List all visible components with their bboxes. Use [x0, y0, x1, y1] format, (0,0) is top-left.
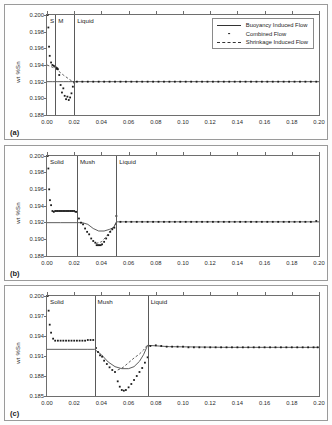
x-axis-tick-mark	[129, 11, 130, 15]
series-shrinkage-induced-flow-line	[96, 222, 116, 243]
legend-item-buoyancy: Buoyancy Induced Flow	[216, 22, 308, 28]
y-axis-tick-label: 0.198	[29, 169, 44, 175]
zone-label: Liquid	[151, 298, 168, 305]
x-axis-tick-label: 0.16	[259, 400, 270, 406]
y-axis-tick-label: 0.194	[29, 62, 44, 68]
x-axis-tick-mark	[265, 11, 266, 15]
zone-boundary-line	[148, 296, 149, 396]
y-axis-tick-mark	[44, 15, 48, 16]
x-axis-tick-mark	[319, 11, 320, 15]
panel-a-ylabel: wt %Sn	[15, 61, 21, 83]
x-axis-tick-mark	[74, 152, 75, 156]
y-axis-tick-label: 0.194	[29, 333, 44, 339]
y-axis-tick-mark	[44, 115, 48, 116]
y-axis-tick-label: 0.194	[29, 203, 44, 209]
x-axis-tick-label: 0.06	[123, 260, 134, 266]
y-axis-tick-label: 0.190	[29, 236, 44, 242]
y-axis-tick-mark	[44, 98, 48, 99]
series-combined-flow-markers	[47, 295, 319, 391]
x-axis-tick-mark	[156, 11, 157, 15]
x-axis-tick-mark	[210, 292, 211, 296]
y-axis-tick-label: 0.185	[29, 393, 44, 399]
y-axis-tick-label: 0.188	[29, 253, 44, 259]
x-axis-tick-mark	[101, 292, 102, 296]
x-axis-tick-mark	[237, 152, 238, 156]
y-axis-tick-mark	[44, 65, 48, 66]
x-axis-tick-label: 0.04	[96, 119, 107, 125]
x-axis-tick-label: 0.20	[313, 260, 324, 266]
panel-b-axes: 0.1880.1900.1920.1940.1960.1980.2000.000…	[46, 155, 320, 257]
panel-c: (c) wt %Sn 0.1850.1880.1910.1940.1970.20…	[4, 285, 328, 421]
series-buoyancy-induced-flow-line	[47, 345, 319, 368]
legend-label-shrinkage: Shrinkage Induced Flow	[246, 39, 308, 45]
x-axis-tick-label: 0.10	[177, 260, 188, 266]
x-axis-tick-label: 0.10	[177, 400, 188, 406]
x-axis-tick-mark	[292, 152, 293, 156]
x-axis-tick-label: 0.00	[41, 400, 52, 406]
x-axis-tick-label: 0.18	[286, 260, 297, 266]
y-axis-tick-mark	[44, 376, 48, 377]
legend: Buoyancy Induced Flow Combined Flow Shri…	[212, 18, 314, 49]
series-shrinkage-induced-flow-line	[118, 345, 148, 370]
x-axis-tick-label: 0.16	[259, 260, 270, 266]
legend-item-combined: Combined Flow	[216, 31, 308, 37]
y-axis-tick-label: 0.200	[29, 293, 44, 299]
x-axis-tick-label: 0.04	[96, 400, 107, 406]
x-axis-tick-mark	[101, 152, 102, 156]
x-axis-tick-mark	[156, 152, 157, 156]
panel-a: (a) wt %Sn 0.1880.1900.1920.1940.1960.19…	[4, 4, 328, 140]
y-axis-tick-mark	[44, 222, 48, 223]
zone-label: S	[50, 17, 54, 24]
zone-label: Liquid	[119, 158, 136, 165]
x-axis-tick-label: 0.18	[286, 119, 297, 125]
y-axis-tick-mark	[44, 32, 48, 33]
x-axis-tick-mark	[265, 152, 266, 156]
x-axis-tick-label: 0.08	[150, 260, 161, 266]
x-axis-tick-label: 0.12	[205, 119, 216, 125]
zone-label: Liquid	[77, 17, 94, 24]
panel-c-plot-area: 0.1850.1880.1910.1940.1970.2000.000.020.…	[46, 295, 320, 397]
panel-c-series-layer	[47, 296, 319, 396]
y-axis-tick-mark	[44, 48, 48, 49]
y-axis-tick-label: 0.200	[29, 153, 44, 159]
legend-label-combined: Combined Flow	[246, 31, 286, 37]
x-axis-tick-mark	[183, 11, 184, 15]
x-axis-tick-mark	[183, 292, 184, 296]
x-axis-tick-label: 0.16	[259, 119, 270, 125]
x-axis-tick-label: 0.12	[205, 400, 216, 406]
series-buoyancy-induced-flow-line	[47, 221, 319, 230]
figure-container: (a) wt %Sn 0.1880.1900.1920.1940.1960.19…	[0, 0, 332, 425]
y-axis-tick-label: 0.190	[29, 95, 44, 101]
y-axis-tick-label: 0.188	[29, 112, 44, 118]
x-axis-tick-label: 0.02	[69, 260, 80, 266]
y-axis-tick-mark	[44, 239, 48, 240]
y-axis-tick-label: 0.200	[29, 12, 44, 18]
y-axis-tick-label: 0.188	[29, 373, 44, 379]
x-axis-tick-mark	[129, 152, 130, 156]
y-axis-tick-mark	[44, 296, 48, 297]
x-axis-tick-mark	[101, 11, 102, 15]
panel-c-axes: 0.1850.1880.1910.1940.1970.2000.000.020.…	[46, 295, 320, 397]
x-axis-tick-mark	[292, 292, 293, 296]
x-axis-tick-mark	[210, 11, 211, 15]
x-axis-tick-label: 0.08	[150, 400, 161, 406]
y-axis-tick-label: 0.198	[29, 29, 44, 35]
x-axis-tick-mark	[47, 11, 48, 15]
legend-label-buoyancy: Buoyancy Induced Flow	[246, 22, 308, 28]
y-axis-tick-mark	[44, 172, 48, 173]
x-axis-tick-mark	[47, 152, 48, 156]
y-axis-tick-mark	[44, 82, 48, 83]
x-axis-tick-label: 0.08	[150, 119, 161, 125]
panel-b-tag: (b)	[10, 269, 20, 278]
y-axis-tick-label: 0.196	[29, 45, 44, 51]
zone-boundary-line	[77, 156, 78, 256]
y-axis-tick-mark	[44, 336, 48, 337]
x-axis-tick-mark	[183, 152, 184, 156]
dot-marker-icon	[216, 31, 242, 37]
x-axis-tick-mark	[210, 152, 211, 156]
panel-c-tag: (c)	[10, 409, 19, 418]
panel-b-series-layer	[47, 156, 319, 256]
y-axis-tick-mark	[44, 356, 48, 357]
x-axis-tick-mark	[237, 11, 238, 15]
panel-b-plot-area: 0.1880.1900.1920.1940.1960.1980.2000.000…	[46, 155, 320, 257]
